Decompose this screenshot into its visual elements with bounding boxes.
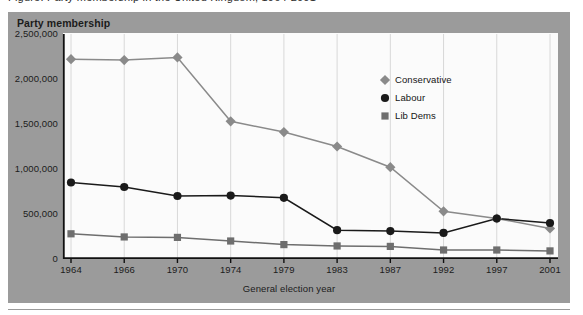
y-axis-tick-label: 0 [53,253,58,264]
plot-area [63,33,558,258]
series-line [71,183,550,233]
data-point-marker [121,233,128,240]
y-axis-tick-label: 1,500,000 [15,118,58,129]
cut-off-caption-text: Figure: Party membership in the United K… [8,0,316,3]
data-point-marker [332,141,342,151]
data-point-marker [546,247,553,254]
x-axis-tick-labels: 1964196619701974197919831987199219972001 [63,264,558,280]
circle-marker-icon [378,91,392,105]
y-axis-tick-labels: 0500,0001,000,0001,500,0002,000,0002,500… [8,33,58,258]
data-point-marker [280,194,288,202]
chart-figure-panel: Party membership 0500,0001,000,0001,500,… [8,12,570,303]
y-axis-tick-label: 1,000,000 [15,163,58,174]
x-axis-tick-label: 1983 [326,264,348,275]
x-axis-tick-label: 1997 [486,264,508,275]
x-axis-tick-label: 1979 [273,264,295,275]
legend-item-conservative[interactable]: Conservative [378,72,508,87]
data-point-marker [493,246,500,253]
cut-off-caption-sliver: Figure: Party membership in the United K… [0,0,583,9]
data-point-marker [387,243,394,250]
data-point-marker [66,54,76,64]
data-point-marker [333,226,341,234]
x-axis-title: General election year [8,283,570,294]
x-axis-tick-label: 2001 [539,264,561,275]
legend-item-label: Labour [395,92,425,103]
square-marker-icon [378,109,392,123]
data-point-marker [279,127,289,137]
data-point-marker [334,242,341,249]
chart-legend: ConservativeLabourLib Dems [378,72,508,126]
data-point-marker [227,237,234,244]
diamond-marker-icon [378,73,392,87]
data-point-marker [119,55,129,65]
axis-lines [63,34,558,263]
y-axis-tick-label: 2,500,000 [15,28,58,39]
x-axis-tick-label: 1974 [220,264,242,275]
data-point-marker [227,191,235,199]
x-axis-tick-label: 1966 [113,264,135,275]
data-point-marker [280,241,287,248]
x-axis-tick-label: 1970 [167,264,189,275]
legend-item-labour[interactable]: Labour [378,90,508,105]
data-point-marker [439,229,447,237]
series-line [71,234,550,251]
legend-item-label: Lib Dems [395,110,436,121]
data-point-marker [67,178,75,186]
data-point-marker [386,227,394,235]
legend-item-lib-dems[interactable]: Lib Dems [378,108,508,123]
data-point-marker [440,246,447,253]
bottom-divider-rule [8,309,570,310]
data-point-marker [173,192,181,200]
data-point-marker [67,230,74,237]
data-point-marker [546,219,554,227]
x-axis-tick-label: 1964 [60,264,82,275]
data-point-marker [120,183,128,191]
y-axis-tick-label: 2,000,000 [15,73,58,84]
legend-item-label: Conservative [395,74,452,85]
chart-plot-svg [63,33,558,264]
data-point-marker [493,214,501,222]
x-axis-tick-label: 1992 [433,264,455,275]
y-axis-tick-label: 500,000 [23,208,58,219]
x-axis-tick-label: 1987 [380,264,402,275]
data-point-marker [174,234,181,241]
